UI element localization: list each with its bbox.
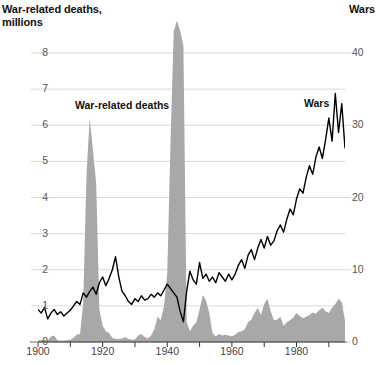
right-axis-tick-40: 40 — [352, 47, 378, 58]
war-deaths-and-wars-chart: War-related deaths, millions Wars War-re… — [0, 0, 389, 365]
left-axis-tick-8: 8 — [26, 47, 48, 58]
series-label-war-related-deaths: War-related deaths — [75, 99, 169, 111]
left-axis-tick-3: 3 — [26, 228, 48, 239]
right-axis-tick-0: 0 — [352, 336, 378, 347]
x-axis-tick-1900: 1900 — [18, 346, 58, 357]
x-axis-tick-1960: 1960 — [212, 346, 252, 357]
right-axis-tick-10: 10 — [352, 264, 378, 275]
left-axis-tick-5: 5 — [26, 155, 48, 166]
right-axis-ticks — [345, 53, 351, 342]
left-axis-tick-7: 7 — [26, 83, 48, 94]
x-axis-tick-1940: 1940 — [147, 346, 187, 357]
right-axis-tick-30: 30 — [352, 119, 378, 130]
left-axis-tick-1: 1 — [26, 300, 48, 311]
left-axis-tick-6: 6 — [26, 119, 48, 130]
x-axis-tick-1980: 1980 — [277, 346, 317, 357]
plot-area — [0, 0, 389, 365]
left-axis-tick-2: 2 — [26, 264, 48, 275]
series-label-wars: Wars — [304, 97, 329, 109]
x-axis-tick-1920: 1920 — [83, 346, 123, 357]
right-axis-tick-20: 20 — [352, 192, 378, 203]
left-axis-tick-4: 4 — [26, 192, 48, 203]
